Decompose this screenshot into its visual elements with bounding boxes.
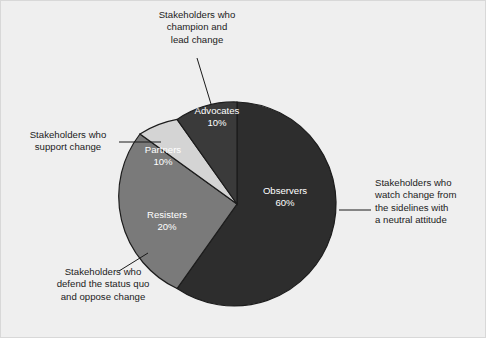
- slice-label-observers: Observers 60%: [237, 185, 333, 209]
- slice-label-advocates: Advocates 10%: [169, 105, 265, 129]
- leader-line-advocates: [197, 58, 211, 104]
- callout-partners: Stakeholders who support change: [9, 129, 127, 154]
- chart-figure: Advocates 10% Partners 10% Resisters 20%…: [0, 0, 486, 338]
- slice-label-partners: Partners 10%: [120, 144, 206, 168]
- callout-resisters: Stakeholders who defend the status quo a…: [23, 266, 183, 303]
- slice-label-resisters: Resisters 20%: [121, 209, 213, 233]
- callout-advocates: Stakeholders who champion and lead chang…: [133, 9, 261, 46]
- callout-observers: Stakeholders who watch change from the s…: [375, 177, 483, 227]
